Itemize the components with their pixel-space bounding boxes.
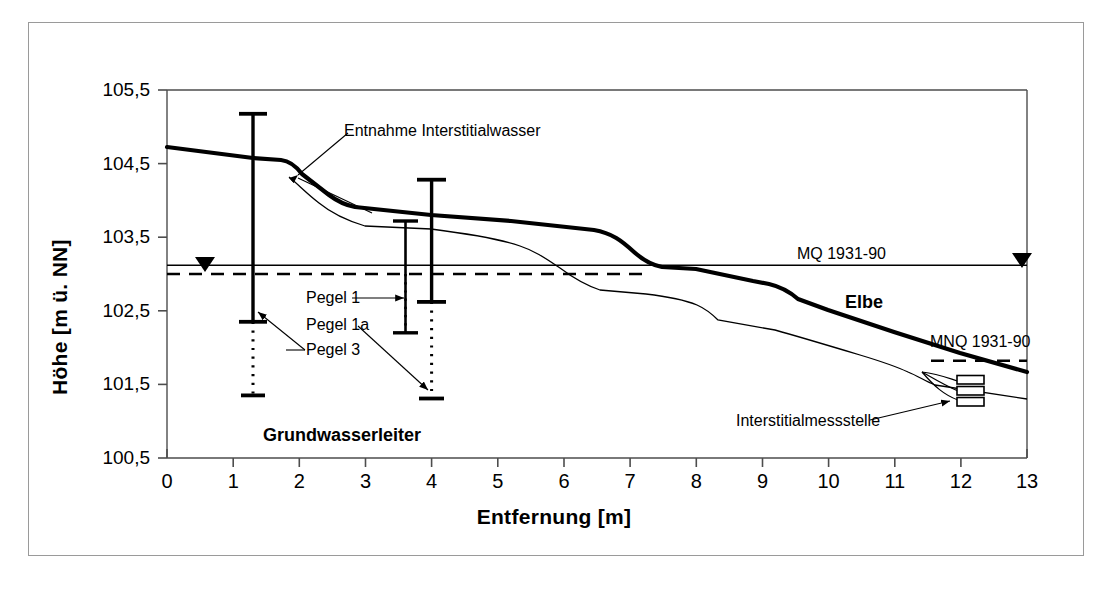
annotation-interstitialmessstelle: Interstitialmessstelle bbox=[736, 412, 880, 430]
x-tick-label-8: 8 bbox=[676, 470, 716, 493]
annotation-grundwasserleiter: Grundwasserleiter bbox=[263, 425, 421, 446]
annotation-pegel-1a: Pegel 1a bbox=[306, 316, 369, 334]
x-axis-title: Entfernung [m] bbox=[0, 505, 1108, 529]
annotation-entnahme-interstitialwasser: Entnahme Interstitialwasser bbox=[344, 122, 541, 140]
annotation-pegel-3: Pegel 3 bbox=[306, 341, 360, 359]
figure-caption bbox=[28, 566, 1084, 606]
x-tick-label-0: 0 bbox=[147, 470, 187, 493]
annotation-mnq-1931-90: MNQ 1931-90 bbox=[930, 333, 1031, 351]
x-tick-label-5: 5 bbox=[478, 470, 518, 493]
y-axis-title: Höhe [m ü. NN] bbox=[48, 239, 72, 395]
x-tick-label-7: 7 bbox=[610, 470, 650, 493]
x-tick-label-2: 2 bbox=[279, 470, 319, 493]
x-tick-label-10: 10 bbox=[809, 470, 849, 493]
x-tick-label-13: 13 bbox=[1007, 470, 1047, 493]
annotation-pegel-1: Pegel 1 bbox=[306, 289, 360, 307]
y-tick-label-104-5: 104,5 bbox=[55, 153, 150, 175]
annotation-mq-1931-90: MQ 1931-90 bbox=[797, 245, 886, 263]
figure-root: 105,5 104,5 103,5 102,5 101,5 100,5 0 1 … bbox=[0, 0, 1108, 607]
x-tick-label-11: 11 bbox=[875, 470, 915, 493]
x-tick-label-6: 6 bbox=[544, 470, 584, 493]
x-tick-label-9: 9 bbox=[743, 470, 783, 493]
x-tick-label-3: 3 bbox=[346, 470, 386, 493]
x-tick-label-1: 1 bbox=[213, 470, 253, 493]
x-tick-label-4: 4 bbox=[412, 470, 452, 493]
y-tick-label-105-5: 105,5 bbox=[55, 79, 150, 101]
x-tick-label-12: 12 bbox=[941, 470, 981, 493]
y-tick-label-100-5: 100,5 bbox=[55, 447, 150, 469]
annotation-elbe: Elbe bbox=[845, 292, 883, 313]
